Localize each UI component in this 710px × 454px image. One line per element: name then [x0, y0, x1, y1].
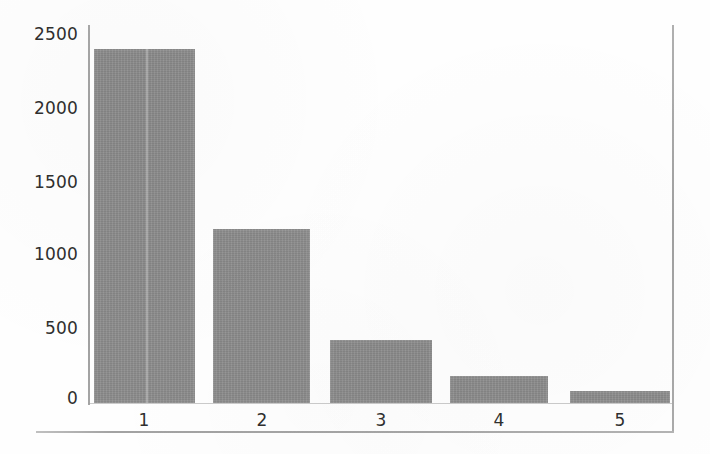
- x-axis-tick-label-2: 2: [232, 412, 292, 429]
- scan-seam-artifact: [146, 49, 148, 403]
- plot-frame-right-border: [672, 25, 674, 433]
- bar-category-3: [330, 340, 432, 403]
- y-axis-tick-label-0: 0: [8, 390, 78, 407]
- plot-frame-bottom-border: [36, 431, 674, 433]
- bar-chart-figure: 2500 2000 1500 1000 500 0 1 2 3 4 5: [0, 0, 710, 454]
- plot-area: 2500 2000 1500 1000 500 0 1 2 3 4 5: [0, 0, 710, 454]
- x-axis-baseline: [88, 403, 674, 404]
- bar-category-2: [213, 229, 310, 403]
- bar-category-1: [94, 49, 195, 403]
- x-axis-tick-label-3: 3: [351, 412, 411, 429]
- bar-category-5: [570, 391, 670, 403]
- x-axis-tick-label-5: 5: [590, 412, 650, 429]
- x-axis-tick-label-4: 4: [469, 412, 529, 429]
- y-axis-line: [88, 25, 90, 405]
- y-axis-tick-label-1000: 1000: [8, 246, 78, 263]
- y-axis-tick-label-2000: 2000: [8, 100, 78, 117]
- bar-category-4: [450, 376, 548, 403]
- y-axis-tick-label-1500: 1500: [8, 174, 78, 191]
- y-axis-tick-label-2500: 2500: [8, 26, 78, 43]
- x-axis-tick-label-1: 1: [114, 412, 174, 429]
- y-axis-tick-label-500: 500: [8, 320, 78, 337]
